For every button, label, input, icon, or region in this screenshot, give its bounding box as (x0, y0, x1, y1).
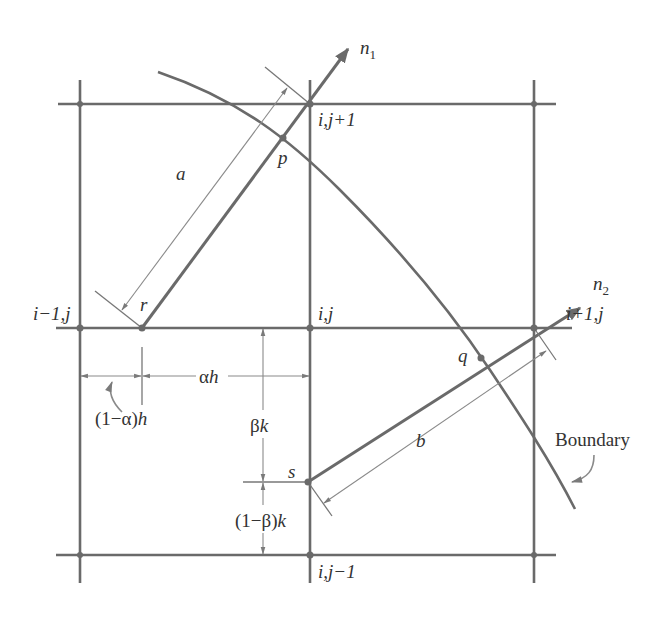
grid-lines (56, 80, 572, 583)
label-point-s: s (288, 461, 295, 482)
pointer-boundary (572, 455, 594, 482)
extension-line-b-right (534, 328, 556, 360)
label-alpha-h: αh (199, 366, 218, 387)
node-top-left (77, 101, 83, 107)
label-one-minus-alpha-h: (1−α)h (95, 408, 147, 430)
node-bottom-left (77, 552, 83, 558)
normal-n1-line (142, 49, 348, 328)
extension-line-b-left (308, 482, 332, 516)
node-i-j-minus-1 (307, 552, 314, 559)
extension-line-a-bottom (95, 291, 142, 328)
label-boundary: Boundary (555, 429, 630, 450)
label-dimension-a: a (176, 163, 186, 184)
label-beta-k: βk (250, 415, 269, 436)
node-i-minus-1-j (77, 325, 84, 332)
label-i-j-plus-1: i,j+1 (318, 109, 356, 130)
label-i-minus-1-j: i−1,j (33, 303, 71, 324)
point-s (305, 479, 312, 486)
grid-nodes (77, 101, 538, 559)
label-normal-n2: n2 (593, 273, 609, 298)
dimension-a-arrow (122, 88, 287, 310)
node-i-plus-1-j (531, 325, 538, 332)
label-dimension-b: b (416, 430, 426, 451)
label-point-q: q (458, 345, 468, 366)
boundary-grid-diagram: i,j+1 i−1,j i,j i+1,j i,j−1 p r q s n1 n… (0, 0, 672, 617)
label-point-p: p (276, 147, 288, 168)
label-i-j-minus-1: i,j−1 (318, 561, 356, 582)
point-r (139, 325, 146, 332)
node-i-j (307, 325, 314, 332)
dimension-b-arrow (324, 351, 546, 503)
extension-line-a-top (265, 67, 310, 104)
label-normal-n1: n1 (360, 37, 376, 62)
point-p (280, 135, 287, 142)
normal-n2-line (308, 308, 580, 482)
node-bottom-right (531, 552, 537, 558)
node-i-j-plus-1 (307, 101, 314, 108)
label-i-plus-1-j: i+1,j (566, 303, 604, 324)
label-one-minus-beta-k: (1−β)k (235, 510, 287, 532)
label-i-j: i,j (318, 303, 333, 324)
point-q (478, 355, 485, 362)
node-top-right (531, 101, 537, 107)
label-point-r: r (140, 294, 148, 315)
